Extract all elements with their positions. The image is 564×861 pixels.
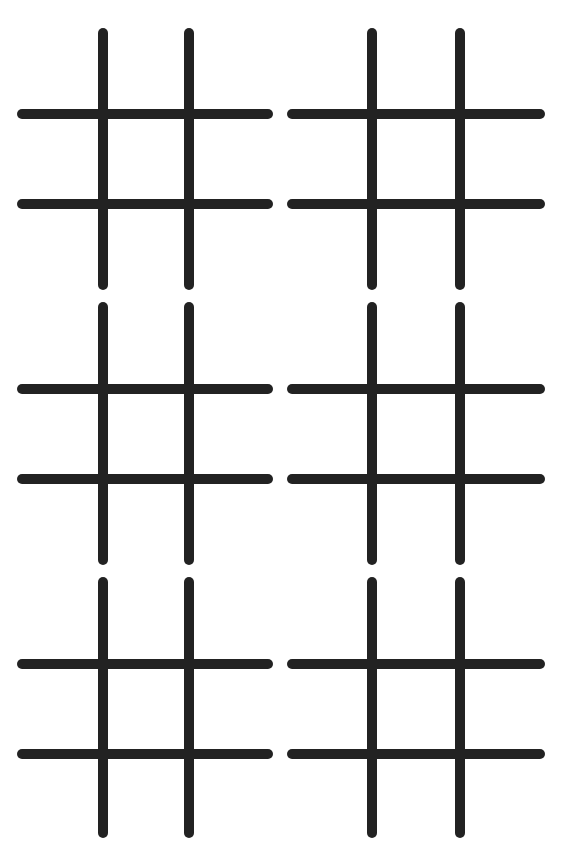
grid-lines [282,0,564,290]
tictactoe-board-4[interactable] [282,275,564,562]
tictactoe-board-6[interactable] [282,550,564,837]
tictactoe-board-3[interactable] [0,275,282,562]
tictactoe-board-5[interactable] [0,550,282,837]
tictactoe-board-1[interactable] [0,0,282,287]
grid-lines [282,550,564,840]
grid-lines [0,550,282,840]
grid-lines [282,275,564,565]
grid-lines [0,0,282,290]
grid-lines [0,275,282,565]
tictactoe-board-2[interactable] [282,0,564,287]
